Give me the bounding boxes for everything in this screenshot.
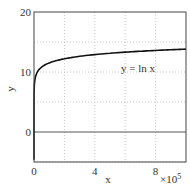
- x-tick-label: 8: [153, 165, 159, 177]
- y-axis-label: y: [4, 86, 16, 92]
- y-tick-label: 10: [20, 66, 32, 78]
- x-tick-labels: 048: [31, 165, 159, 177]
- ln-curve: [34, 49, 186, 160]
- plot-frame: [34, 12, 186, 162]
- y-tick-label: 0: [26, 126, 32, 138]
- grid-lines: [34, 12, 186, 162]
- y-tick-label: 20: [20, 6, 32, 18]
- line-chart: 048 01020 x y ×105 y = ln x: [0, 0, 190, 192]
- x-multiplier: ×105: [160, 172, 181, 185]
- x-tick-label: 0: [31, 165, 37, 177]
- x-tick-label: 4: [92, 165, 98, 177]
- y-tick-labels: 01020: [20, 6, 32, 138]
- x-axis-label: x: [105, 173, 111, 185]
- curve-annotation: y = ln x: [121, 62, 156, 74]
